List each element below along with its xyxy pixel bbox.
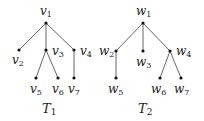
node-label-v6: v6 <box>52 82 64 97</box>
node-v2 <box>17 48 20 51</box>
node-v5 <box>34 76 37 79</box>
node-label-w1: w1 <box>136 4 151 19</box>
tree-t1-labels: v1v2v3v4v5v6v7 <box>12 4 92 97</box>
node-v7 <box>72 76 75 79</box>
tree-diagram: v1v2v3v4v5v6v7 T1 w1w2w3w4w5w6w7 T2 <box>0 0 204 121</box>
edge-w4-w6 <box>160 51 170 78</box>
edge-w1-w4 <box>143 23 170 51</box>
node-label-w7: w7 <box>174 82 189 97</box>
node-w1 <box>141 21 144 24</box>
node-label-w3: w3 <box>136 55 151 70</box>
tree-t1-title: T1 <box>42 101 56 117</box>
tree-t2-title: T2 <box>138 101 152 117</box>
node-label-v2: v2 <box>12 53 24 68</box>
node-label-v3: v3 <box>52 44 64 59</box>
node-v4 <box>72 48 75 51</box>
tree-t1-nodes <box>17 21 75 79</box>
tree-t2: w1w2w3w4w5w6w7 T2 <box>99 4 191 117</box>
tree-t2-nodes <box>114 21 182 79</box>
edge-w1-w2 <box>116 23 143 51</box>
node-v6 <box>56 76 59 79</box>
node-label-w5: w5 <box>108 82 123 97</box>
node-w2 <box>114 49 117 52</box>
node-v3 <box>44 48 47 51</box>
node-w6 <box>158 76 161 79</box>
node-v1 <box>44 21 47 24</box>
node-w5 <box>114 76 117 79</box>
tree-t1: v1v2v3v4v5v6v7 T1 <box>12 4 92 117</box>
node-label-v1: v1 <box>40 4 52 19</box>
edge-v1-v4 <box>46 23 74 50</box>
tree-t2-labels: w1w2w3w4w5w6w7 <box>99 4 191 97</box>
edge-v1-v2 <box>19 23 46 50</box>
node-label-v5: v5 <box>30 82 42 97</box>
node-label-w6: w6 <box>151 82 166 97</box>
edge-v3-v5 <box>36 50 46 78</box>
node-w4 <box>168 49 171 52</box>
node-w7 <box>179 76 182 79</box>
node-label-v7: v7 <box>68 82 80 97</box>
node-label-v4: v4 <box>80 44 92 59</box>
node-w3 <box>141 49 144 52</box>
node-label-w4: w4 <box>176 44 191 59</box>
node-label-w2: w2 <box>99 44 114 59</box>
